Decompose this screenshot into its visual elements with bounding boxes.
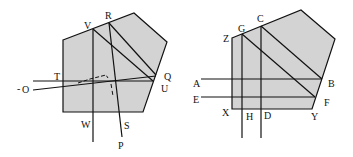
label-d: D (264, 110, 271, 121)
label-o-dash: - (17, 83, 20, 94)
label-t: T (54, 71, 60, 82)
label-e: E (193, 94, 199, 105)
label-x: X (222, 107, 230, 118)
label-c: C (257, 13, 264, 24)
label-f: F (324, 97, 330, 108)
label-o: O (22, 84, 29, 95)
right-pentagon (232, 10, 335, 109)
label-w: W (81, 119, 91, 130)
label-q: Q (164, 71, 172, 82)
label-u: U (161, 83, 169, 94)
label-y: Y (311, 111, 318, 122)
label-b: B (328, 78, 335, 89)
label-v: V (84, 20, 92, 31)
label-r: R (105, 10, 112, 21)
label-z: Z (223, 33, 229, 44)
label-h: H (246, 111, 253, 122)
label-g: G (238, 23, 245, 34)
label-s: S (124, 120, 130, 131)
diagram-canvas: V R T - O Q U W S P Z G C A B E F X H D … (0, 0, 353, 157)
label-p: P (118, 140, 124, 151)
label-a: A (193, 78, 201, 89)
left-pentagon (63, 13, 167, 112)
